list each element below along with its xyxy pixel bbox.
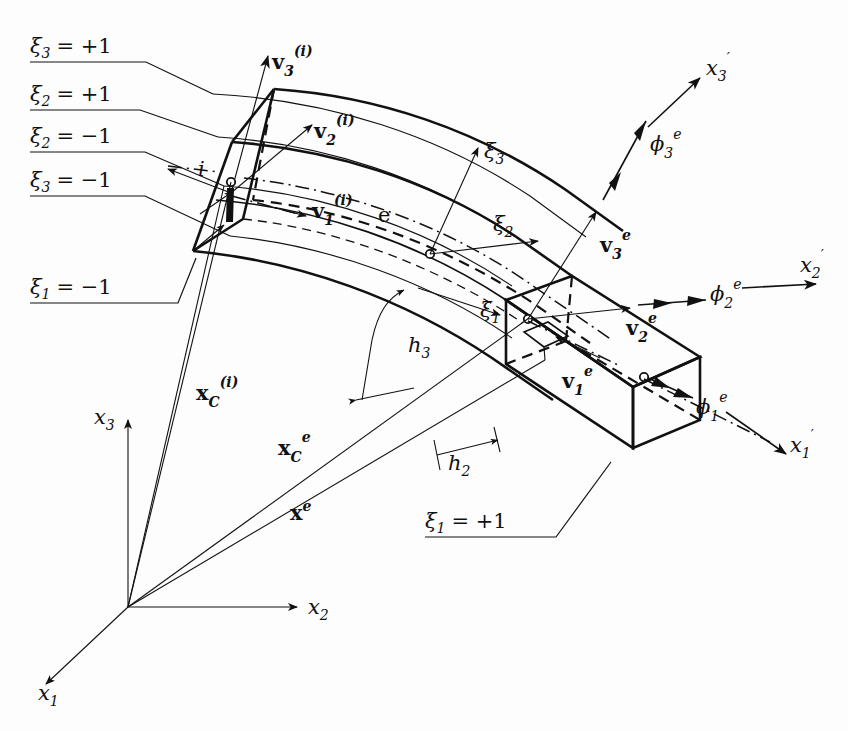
label-x3-axis: x3	[94, 405, 115, 433]
leader-xi1-minus	[30, 258, 196, 303]
vector-v1-nodal-head	[268, 206, 306, 216]
thickness-labels: h3 h2	[408, 333, 471, 479]
vector-v3-nodal-arrow	[231, 56, 268, 193]
h3-base-line	[356, 388, 414, 400]
position-vectors-group	[128, 182, 545, 607]
box-hidden-back-top	[506, 341, 566, 364]
axis-x3-prime-arrow	[648, 78, 700, 127]
rotation-phi3-head-1	[634, 121, 646, 141]
label-v1-nodal: v1(i)	[311, 192, 353, 228]
axis-xi3-arrow	[430, 148, 478, 254]
rotation-phi3-head-2	[609, 172, 621, 191]
label-h2: h2	[448, 451, 471, 479]
axis-x1-prime-arrow	[726, 412, 786, 454]
rotation-labels: ϕ3e ϕ2e ϕ1e	[650, 126, 742, 424]
shell-element-figure: ξ3= +1 ξ2= +1 ξ2= −1 ξ3= −1 ξ1= −1 ξ1= +…	[0, 0, 848, 731]
label-element-e: e	[378, 203, 390, 227]
label-x1-prime: x1′	[790, 427, 814, 461]
label-xi2-plus: ξ2= +1	[30, 82, 112, 109]
h2-dimension-arrow	[437, 440, 498, 455]
ruling-line-mid	[224, 186, 512, 286]
label-xc-element: xCe	[278, 429, 311, 465]
vector-v1-element-arrow	[556, 337, 600, 358]
label-xi2-minus: ξ2= −1	[30, 124, 112, 151]
ruling-line-lower	[230, 236, 512, 338]
shell-top-back-edge	[274, 89, 623, 231]
label-x3-prime: x3′	[706, 50, 730, 84]
axis-x2-prime-arrow	[742, 284, 816, 288]
label-node-i: i	[198, 157, 205, 181]
vector-v1-element-tail	[528, 321, 620, 366]
position-vector-labels: xC(i) xCe xe	[196, 374, 312, 525]
label-xi1-plus: ξ1= +1	[425, 509, 507, 536]
vector-v2-nodal-arrow	[231, 125, 312, 193]
label-v1-element: v1e	[561, 363, 593, 398]
label-x1-axis: x1	[38, 681, 59, 709]
label-phi3: ϕ3e	[650, 126, 682, 161]
rotation-phi2-head-2	[653, 299, 672, 309]
label-h3: h3	[408, 333, 431, 361]
label-x-element: xe	[290, 498, 312, 525]
label-x2-axis: x2	[308, 595, 329, 623]
label-v3-element: v3e	[599, 227, 631, 262]
rotation-phi1-head-1	[673, 388, 693, 398]
label-v3-nodal: v3(i)	[271, 43, 313, 79]
label-xi2-axis: ξ2	[493, 212, 514, 240]
label-xc-nodal: xC(i)	[196, 374, 238, 410]
label-xi3-plus: ξ3= +1	[30, 34, 112, 61]
global-axes-group	[46, 420, 297, 684]
shell-mid-front-edge	[216, 200, 566, 341]
label-xi1-minus: ξ1= −1	[30, 275, 112, 302]
label-xi1-axis: ξ1	[480, 298, 501, 326]
node-i-pointer	[168, 166, 218, 172]
label-xi3-axis: ξ3	[484, 139, 505, 167]
box-front-right-face	[633, 357, 700, 448]
axis-x1-arrow	[46, 607, 128, 684]
vector-x-element-line	[128, 360, 545, 607]
vector-v3-element-arrow	[528, 212, 596, 319]
label-xi3-minus: ξ3= −1	[30, 168, 112, 195]
h2-tick-right	[494, 427, 500, 452]
diagram-canvas: ξ3= +1 ξ2= +1 ξ2= −1 ξ3= −1 ξ1= −1 ξ1= +…	[0, 0, 848, 731]
box-hidden-back-vertical	[566, 276, 572, 341]
label-v2-nodal: v2(i)	[313, 112, 355, 148]
natural-coordinate-triad	[418, 148, 538, 315]
label-x2-prime: x2′	[800, 247, 824, 281]
label-phi2: ϕ2e	[710, 276, 742, 311]
nodal-vector-labels: v3(i) v2(i) v1(i)	[271, 43, 355, 228]
